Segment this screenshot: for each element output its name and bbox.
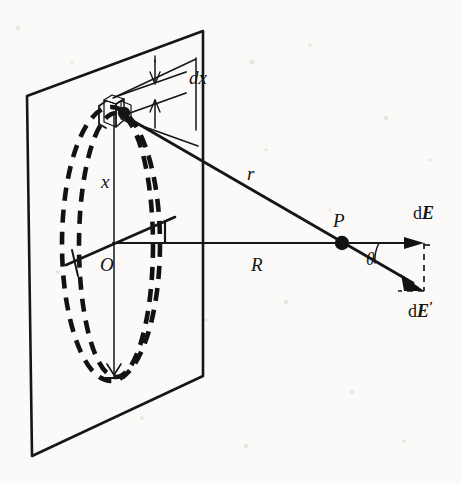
label-dE: dE — [413, 203, 434, 223]
label-point-P: P — [332, 210, 345, 231]
ring-inner — [79, 113, 153, 377]
label-theta: θ — [366, 249, 375, 269]
dx-leader-bottom — [130, 93, 186, 113]
label-x: x — [100, 171, 110, 192]
ring-field-diagram: dx x O r R P θ dE dE′ — [0, 0, 461, 483]
label-dx: dx — [189, 67, 208, 88]
label-dE-E: E — [421, 203, 434, 223]
label-dE-prime-mark: ′ — [429, 300, 433, 315]
label-center-O: O — [100, 254, 114, 275]
label-dE-d: d — [413, 203, 422, 223]
dx-leader-top — [115, 72, 186, 97]
label-dE-prime-d: d — [408, 301, 417, 321]
theta-arc — [375, 243, 379, 263]
label-dE-prime: dE′ — [408, 300, 433, 321]
field-dE-head — [404, 237, 424, 249]
label-R: R — [250, 254, 263, 275]
label-dE-prime-E: E — [416, 301, 429, 321]
label-r: r — [247, 163, 255, 184]
figure-canvas: dx x O r R P θ dE dE′ — [0, 0, 461, 483]
ring-diameter-line — [66, 217, 175, 265]
